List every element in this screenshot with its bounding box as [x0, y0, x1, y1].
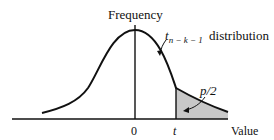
curve-label-suffix: distribution [209, 28, 269, 43]
curve-label-subscript: n − k − 1 [169, 35, 203, 45]
tick-t: t [173, 125, 176, 137]
tick-zero: 0 [131, 125, 137, 137]
x-axis-label: Value [231, 125, 258, 137]
tail-label: p/2 [200, 84, 217, 97]
y-axis-label: Frequency [108, 8, 163, 21]
curve-label: tn − k − 1 distribution [165, 29, 269, 45]
